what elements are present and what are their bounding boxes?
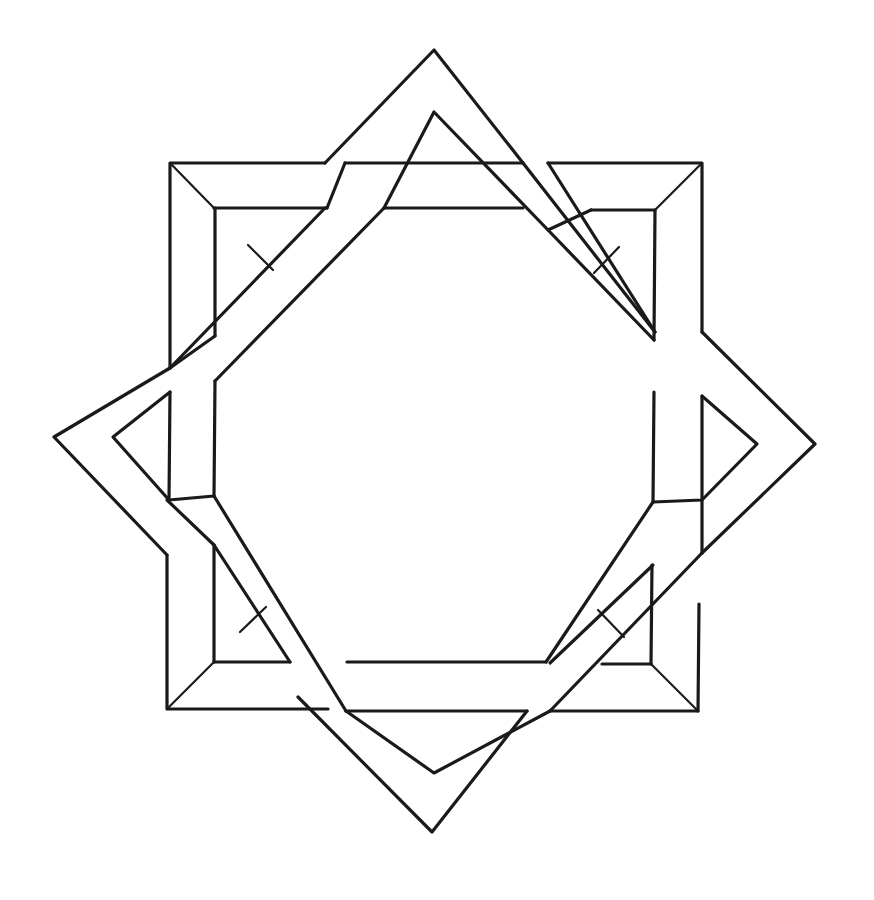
- square-miter-tr: [655, 163, 702, 210]
- square-miter-br: [651, 664, 698, 711]
- diamond-outer-sw: [167, 500, 214, 545]
- square-inner-right-top: [654, 210, 655, 340]
- diamond-outer-bottom: [298, 697, 527, 832]
- square-inner-right-mid: [653, 392, 654, 502]
- diamond-band-ne-inner: [523, 163, 655, 332]
- square-outer-right-bottom: [698, 604, 699, 711]
- diamond-outer-top: [325, 50, 523, 163]
- square-outer-left-mid: [169, 392, 170, 500]
- diamond-seam-nw: [248, 245, 273, 270]
- diamond-outer-nw: [170, 208, 325, 368]
- diamond-outer-left: [54, 368, 170, 555]
- diamond-inner-sw: [214, 496, 346, 711]
- square-inner-right-bottom: [651, 565, 652, 664]
- diamond-inner-right: [653, 396, 757, 502]
- diamond-band-se-outer: [550, 553, 702, 711]
- diamond-outer-nw-upper: [327, 163, 345, 208]
- star-figure-canvas: Interlaced eight-pointed star formed by …: [0, 0, 874, 900]
- square-outer-top-right: [548, 163, 702, 332]
- diamond-outer-right: [702, 332, 815, 553]
- square-miter-bl: [167, 662, 214, 709]
- interlaced-star-drawing: [0, 0, 874, 900]
- square-outer-top-left: [170, 163, 325, 368]
- square-inner-left-mid: [214, 381, 215, 496]
- diamond-inner-left: [113, 392, 214, 500]
- diamond-seam-se: [598, 610, 624, 637]
- diamond-band-nw-outer: [170, 336, 215, 368]
- square-miter-tl: [170, 163, 214, 208]
